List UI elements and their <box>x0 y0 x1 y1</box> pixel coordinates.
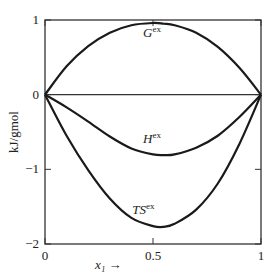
y-tick-label: 1 <box>33 12 40 27</box>
curve-label-hex: Hex <box>142 130 161 146</box>
y-tick-label: −2 <box>25 236 39 251</box>
curve-label-gex: Gex <box>143 24 161 40</box>
curve-hex <box>45 95 261 156</box>
y-tick-label: 0 <box>33 87 40 102</box>
x-tick-label: 0 <box>42 248 49 263</box>
y-axis-label: kJ/gmol <box>6 111 21 153</box>
x-tick-label: 0.5 <box>145 248 161 263</box>
plot-area: 10−1−200.51x₁ →kJ/gmolGexHexTSex <box>6 12 264 272</box>
x-axis-label: x₁ → <box>94 257 122 272</box>
x-tick-label: 1 <box>258 248 265 263</box>
curve-label-tsex: TSex <box>132 201 155 217</box>
y-tick-label: −1 <box>25 161 39 176</box>
excess-properties-chart: 10−1−200.51x₁ →kJ/gmolGexHexTSex <box>0 0 274 280</box>
